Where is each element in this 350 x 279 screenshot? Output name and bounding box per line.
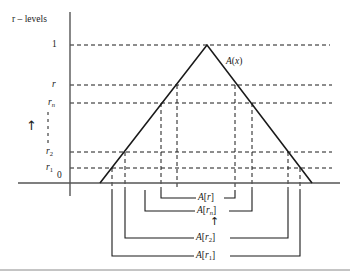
alpha-cut-droplines [112,85,300,190]
bracket-label-A-r: A[r] [198,193,214,203]
curve-label-Ax: A(x) [226,57,242,67]
levels-increase-arrow-icon: ↑ [26,119,37,132]
level-gridlines [70,45,332,168]
bracket-label-A-r2: A[r2] [196,233,215,243]
bracket-A-r2-left-arm [125,190,194,238]
bracket-A-r-left-arm [161,190,196,198]
bracket-A-r1-left-arm [112,190,194,256]
bracket-A-r2-right-arm [230,190,288,238]
bracket-A-r1-right-arm [230,190,300,256]
y-tick-label-rn: rn [48,98,55,108]
y-tick-label-r: r [52,80,56,90]
bracket-A-rn-right-arm [229,190,252,211]
y-axis-title: r – levels [12,15,47,25]
fuzzy-alpha-cut-figure: r – levels 1 r rn ↑ r2 r1 0 A(x) A[r] A[… [0,0,350,279]
y-tick-label-r2: r2 [46,147,53,157]
bracket-sequence-arrow-icon: ↑ [210,216,219,227]
membership-function-curve [100,45,312,183]
y-tick-label-1: 1 [52,40,57,50]
bracket-label-A-r1: A[r1] [196,251,215,261]
bracket-A-r-right-arm [224,190,235,198]
y-tick-label-r1: r1 [46,163,53,173]
y-tick-label-0: 0 [57,171,62,181]
bracket-A-rn-left-arm [145,190,195,211]
